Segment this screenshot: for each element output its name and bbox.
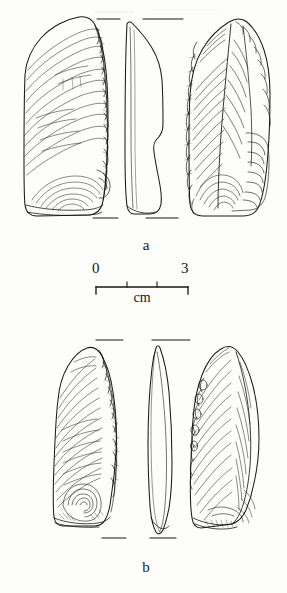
figure-a-dorsal-scars (193, 24, 252, 208)
figure-b-label: b (126, 560, 166, 575)
figure-a-ventral-ripples (25, 29, 106, 211)
figure-a-dorsal-retouch-right (236, 22, 270, 126)
illustration-plate: a 0 3 cm (0, 0, 287, 593)
figure-a-dorsal-outline (189, 19, 270, 216)
figure-b-dorsal-outline (190, 347, 259, 530)
figure-a-dorsal-retouch (185, 42, 197, 214)
figure-a-ventral-outline (24, 17, 108, 216)
figure-a-profile-outline (125, 22, 163, 214)
figure-a-label: a (126, 238, 166, 253)
scan-artifact (150, 10, 220, 11)
figure-a-dorsal-platform (232, 133, 269, 211)
scale-unit-label: cm (112, 291, 172, 305)
figure-b-dorsal-scars (194, 348, 251, 520)
figure-b-ventral-ripples (55, 357, 102, 507)
figure-b-ventral-bulb (59, 484, 103, 521)
figure-b-dorsal-platform (206, 507, 243, 527)
scale-max-label: 3 (181, 261, 189, 276)
figure-b-dorsal-retouch (190, 378, 207, 489)
scan-artifact (95, 11, 135, 13)
figure-b-ventral-retouch (99, 350, 119, 512)
figure-a-ventral-retouch (95, 26, 110, 200)
scale-min-label: 0 (92, 261, 100, 276)
figure-a-dorsal-bulb (196, 175, 243, 210)
figure-b-ventral-outline (53, 347, 116, 527)
figure-b-profile-outline (148, 346, 172, 534)
